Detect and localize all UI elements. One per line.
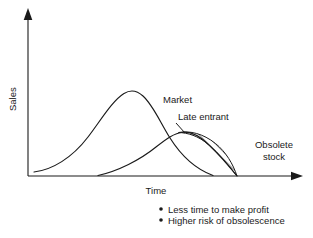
x-axis-label: Time xyxy=(146,185,167,196)
market-label: Market xyxy=(163,94,192,105)
product-lifecycle-diagram: Sales Time Market Late entrant Obsolete … xyxy=(0,0,313,238)
bullet-item-0: Less time to make profit xyxy=(168,204,269,215)
obsolete-stock-label-line1: Obsolete xyxy=(255,139,293,150)
bullet-dot-icon xyxy=(159,218,163,222)
bullet-item-1: Higher risk of obsolescence xyxy=(168,215,285,226)
bullet-dot-icon xyxy=(159,207,163,211)
obsolete-stock-label-line2: stock xyxy=(263,151,285,162)
late-entrant-label: Late entrant xyxy=(178,111,229,122)
y-axis-label: Sales xyxy=(7,87,18,111)
bullet-list: Less time to make profit Higher risk of … xyxy=(159,204,285,226)
figure-background xyxy=(0,0,313,238)
